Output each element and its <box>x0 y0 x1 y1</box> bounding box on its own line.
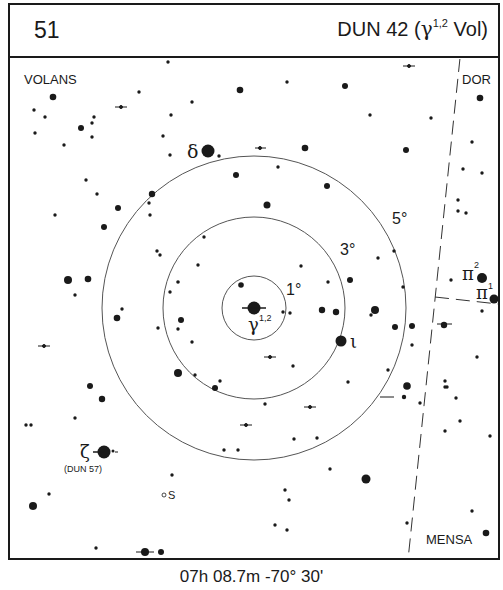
label-pi1: π <box>476 282 488 303</box>
circle-label-1deg: 1° <box>286 281 301 298</box>
label-pi2: π <box>462 263 474 284</box>
boundary-dor-mensa <box>408 58 460 560</box>
label-delta: δ <box>187 140 198 162</box>
circle-label-3deg: 3° <box>340 241 355 258</box>
circle-label-5deg: 5° <box>392 210 407 227</box>
constellation-volans: VOLANS <box>24 72 77 87</box>
constellation-mensa: MENSA <box>426 532 473 547</box>
label-gamma-sup: 1,2 <box>259 313 272 323</box>
stars <box>24 60 498 556</box>
boundary-dor-pi <box>435 297 498 304</box>
label-pi2-sup: 2 <box>474 260 479 270</box>
label-zeta: ζ <box>80 441 90 462</box>
label-s-variable: S <box>168 489 175 501</box>
label-iota: ι <box>350 331 357 352</box>
center-coordinates: 07h 08.7m -70° 30' <box>0 567 503 587</box>
label-gamma: γ <box>248 314 259 335</box>
star-map: VOLANS DOR MENSA 1° 3° 5° γ 1,2 δ ι ζ (D… <box>0 0 503 590</box>
constellation-dorado: DOR <box>462 72 491 87</box>
label-pi1-sup: 1 <box>488 281 493 291</box>
label-zeta-dun57: (DUN 57) <box>64 464 102 474</box>
